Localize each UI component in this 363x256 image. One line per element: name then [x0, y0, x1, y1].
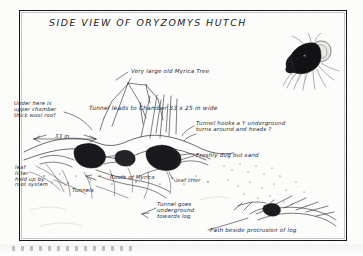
label-tunnel-to-chamber: Tunnel leads to Chamber 33 x 25 in wide [89, 105, 217, 112]
label-fresh-sand: Freshly dug out sand [196, 152, 259, 158]
fresh-sand-stipple [223, 163, 306, 206]
root-system [30, 164, 171, 198]
label-leaf-litter-secondary: leaf litter [176, 178, 200, 183]
label-tunnels: Tunnels [72, 187, 94, 193]
label-leaf-litter: leaf litter held up by root system [15, 165, 48, 188]
label-tunnel-goes-underground: Tunnel goes underground towards log [157, 201, 194, 219]
myrica-stems [141, 95, 177, 138]
label-path-beside-log: Path beside protrusion of log [210, 227, 297, 233]
label-width-measurement: 33 in [55, 133, 70, 139]
eye-glint [304, 55, 305, 56]
oryzomys-head-inset [283, 33, 341, 91]
scanned-notebook-page: SIDE VIEW OF ORYZOMYS HUTCH Very large o… [0, 0, 363, 256]
page-edge-marking [12, 246, 132, 251]
rodent-head-illustration [283, 33, 341, 91]
label-tunnel-hooks-y: Tunnel hooks a Y underground turns aroun… [196, 120, 285, 132]
label-myrica-tree: Very large old Myrica Tree [131, 68, 209, 74]
page-title: SIDE VIEW OF ORYZOMYS HUTCH [49, 18, 247, 29]
label-upper-chamber: Under here is upper chamber thick wool r… [14, 101, 56, 118]
chamber-right-hatch [146, 145, 181, 170]
eye [303, 54, 307, 57]
log-debris-cluster [263, 204, 280, 217]
label-roots-of-myrica: Roots of Myrica [110, 174, 155, 180]
myrica-tree-branches [100, 78, 163, 130]
chamber-left-hatch [74, 143, 105, 168]
log-protrusion [234, 196, 336, 226]
leader-lines [34, 72, 248, 230]
scan-smudges [30, 197, 230, 226]
